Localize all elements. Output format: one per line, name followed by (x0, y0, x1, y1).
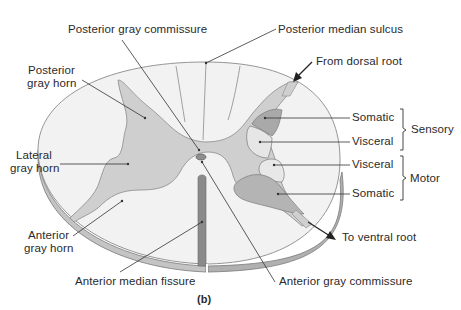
spinal-cord-diagram: Posterior gray commissure Posterior medi… (0, 0, 461, 310)
label-lateral-gray-horn-line1: Lateral (16, 149, 52, 162)
label-anterior-gray-commissure: Anterior gray commissure (279, 275, 412, 288)
bracket-sensory (400, 109, 406, 150)
label-motor-group: Motor (410, 172, 440, 185)
spinal-cord-illustration (0, 0, 461, 310)
label-anterior-gray-horn-line2: gray horn (24, 242, 73, 255)
label-posterior-median-sulcus: Posterior median sulcus (278, 23, 403, 36)
leader-posterior-median-sulcus (206, 29, 276, 63)
label-anterior-gray-horn-line1: Anterior (28, 229, 69, 242)
label-posterior-gray-commissure: Posterior gray commissure (68, 23, 207, 36)
bracket-motor (400, 156, 406, 200)
label-anterior-median-fissure: Anterior median fissure (75, 275, 196, 288)
label-to-ventral-root: To ventral root (342, 231, 416, 244)
label-from-dorsal-root: From dorsal root (316, 55, 402, 68)
anterior-median-fissure (198, 175, 206, 266)
label-motor-somatic: Somatic (352, 187, 394, 200)
label-lateral-gray-horn-line2: gray horn (10, 162, 59, 175)
label-sensory-group: Sensory (411, 123, 454, 136)
figure-caption: (b) (197, 293, 211, 305)
label-sensory-somatic: Somatic (352, 111, 394, 124)
arrow-from-dorsal-root (293, 62, 312, 82)
label-posterior-gray-horn-line1: Posterior (28, 64, 75, 77)
label-posterior-gray-horn-line2: gray horn (27, 77, 76, 90)
label-motor-visceral: Visceral (352, 158, 394, 171)
label-sensory-visceral: Visceral (352, 135, 394, 148)
central-canal (196, 154, 206, 160)
